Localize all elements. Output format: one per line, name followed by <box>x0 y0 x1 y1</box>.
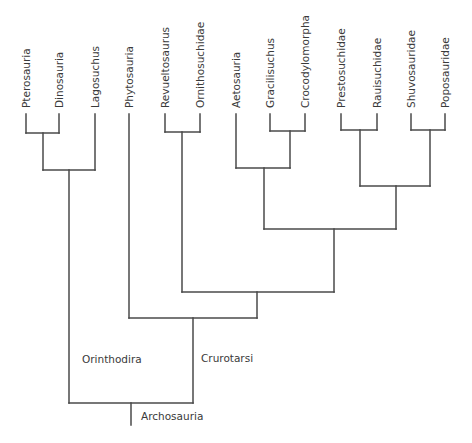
leaf-label-revueltosaurus: Revueltosaurus <box>159 27 171 108</box>
leaf-label-lagosuchus: Lagosuchus <box>89 46 101 108</box>
leaf-label-shuvosauridae: Shuvosauridae <box>405 30 417 108</box>
leaf-label-phytosauria: Phytosauria <box>123 46 135 108</box>
leaf-label-prestosuchidae: Prestosuchidae <box>335 28 347 108</box>
clade-prestosuchidae-rauisuchidae <box>341 114 377 186</box>
clade-pterosauria-dinosauria <box>26 114 59 170</box>
clade-gracilisuchus-crocodylomorpha <box>270 114 305 168</box>
clade-label-crurotarsi: Crurotarsi <box>201 352 253 364</box>
clade-shuvosauridae-poposauridae <box>411 114 445 186</box>
clade-post-phytosaur <box>182 292 334 318</box>
leaf-label-crocodylomorpha: Crocodylomorpha <box>299 15 311 108</box>
leaf-label-poposauridae: Poposauridae <box>439 37 451 108</box>
leaf-label-ornithosuchidae: Ornithosuchidae <box>194 22 206 108</box>
clade-revueltosaurus-ornithosuchidae <box>165 114 200 292</box>
leaf-label-gracilisuchus: Gracilisuchus <box>264 38 276 108</box>
leaf-label-pterosauria: Pterosauria <box>20 48 32 108</box>
clade-label-orinthodira: Orinthodira <box>82 353 142 365</box>
clade-label-archosauria: Archosauria <box>141 410 203 422</box>
clade-rauisuchian-group <box>360 186 430 229</box>
leaf-label-dinosauria: Dinosauria <box>53 52 65 108</box>
leaf-label-rauisuchidae: Rauisuchidae <box>371 38 383 108</box>
leaf-label-aetosauria: Aetosauria <box>230 52 242 108</box>
clade-suchian-group <box>264 229 396 292</box>
